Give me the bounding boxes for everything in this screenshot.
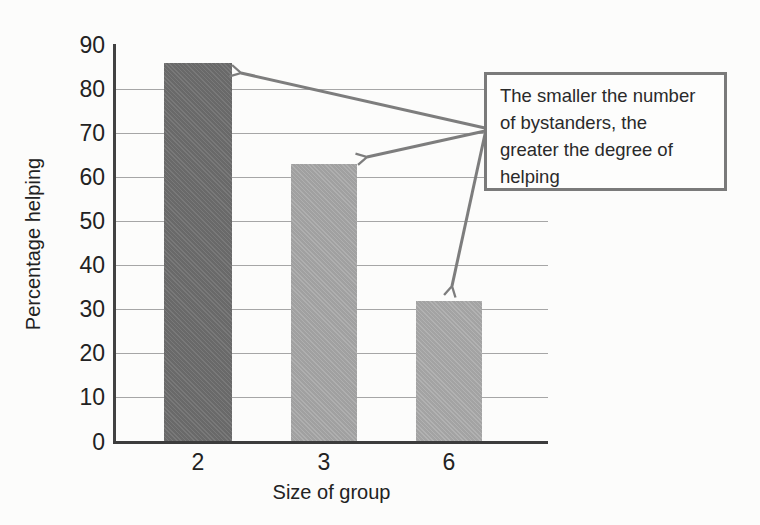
arrow-to-bar-2-icon bbox=[241, 73, 485, 128]
x-tick-label-3: 3 bbox=[294, 449, 354, 476]
y-tick-label-60: 60 bbox=[50, 163, 105, 191]
x-axis-line bbox=[113, 441, 548, 444]
bystander-bar-chart-figure: Percentage helping 010203040506070809023… bbox=[0, 0, 760, 525]
arrow-to-bar-6-icon bbox=[452, 134, 485, 286]
y-tick-label-70: 70 bbox=[50, 119, 105, 147]
x-axis-title: Size of group bbox=[115, 481, 548, 504]
annotation-text-line: helping bbox=[500, 163, 720, 190]
annotation-text-line: greater the degree of bbox=[500, 136, 720, 163]
arrow-to-bar-3-icon bbox=[367, 131, 485, 157]
x-tick-label-6: 6 bbox=[419, 449, 479, 476]
bar-group-size-2 bbox=[164, 63, 232, 442]
bar-group-size-6 bbox=[416, 301, 482, 442]
annotation-box: The smaller the number of bystanders, th… bbox=[484, 72, 727, 191]
bar-group-size-3 bbox=[291, 164, 357, 442]
y-tick-label-80: 80 bbox=[50, 75, 105, 103]
y-tick-label-30: 30 bbox=[50, 295, 105, 323]
y-tick-label-90: 90 bbox=[50, 31, 105, 59]
y-tick-label-20: 20 bbox=[50, 339, 105, 367]
y-tick-label-0: 0 bbox=[50, 428, 105, 456]
annotation-text-line: The smaller the number bbox=[500, 82, 720, 109]
y-tick-label-50: 50 bbox=[50, 207, 105, 235]
x-tick-label-2: 2 bbox=[168, 449, 228, 476]
y-axis-line bbox=[113, 44, 116, 444]
annotation-text-line: of bystanders, the bbox=[500, 109, 720, 136]
y-tick-label-40: 40 bbox=[50, 251, 105, 279]
y-axis-title: Percentage helping bbox=[21, 149, 45, 339]
y-tick-label-10: 10 bbox=[50, 383, 105, 411]
